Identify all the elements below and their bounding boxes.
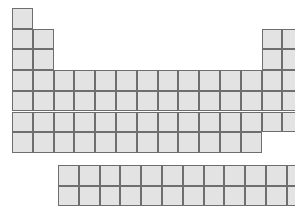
- element-cell-g1-p1[interactable]: [12, 8, 33, 29]
- element-cell-g4-p7[interactable]: [74, 132, 95, 153]
- element-cell-g13-p5[interactable]: [262, 91, 283, 112]
- element-cell-g14-p2[interactable]: [282, 29, 295, 50]
- fblock-cell-r2-c2[interactable]: [79, 186, 100, 207]
- element-cell-g12-p7[interactable]: [241, 132, 262, 153]
- element-cell-g13-p2[interactable]: [262, 29, 283, 50]
- element-cell-g6-p4[interactable]: [116, 70, 137, 91]
- element-cell-g7-p5[interactable]: [137, 91, 158, 112]
- element-cell-g1-p3[interactable]: [12, 49, 33, 70]
- element-cell-g7-p6[interactable]: [137, 112, 158, 133]
- fblock-cell-r1-c6[interactable]: [162, 165, 183, 186]
- element-cell-g12-p4[interactable]: [241, 70, 262, 91]
- element-cell-g9-p6[interactable]: [178, 112, 199, 133]
- element-cell-g14-p3[interactable]: [282, 49, 295, 70]
- fblock-cell-r1-c3[interactable]: [100, 165, 121, 186]
- element-cell-g9-p7[interactable]: [178, 132, 199, 153]
- element-cell-g1-p6[interactable]: [12, 112, 33, 133]
- element-cell-g7-p7[interactable]: [137, 132, 158, 153]
- element-cell-g2-p7[interactable]: [33, 132, 54, 153]
- element-cell-g5-p5[interactable]: [95, 91, 116, 112]
- element-cell-g3-p7[interactable]: [54, 132, 75, 153]
- element-cell-g3-p4[interactable]: [54, 70, 75, 91]
- element-cell-g9-p4[interactable]: [178, 70, 199, 91]
- element-cell-g11-p4[interactable]: [220, 70, 241, 91]
- element-cell-g4-p6[interactable]: [74, 112, 95, 133]
- fblock-cell-r1-c8[interactable]: [204, 165, 225, 186]
- fblock-cell-r2-c4[interactable]: [120, 186, 141, 207]
- element-cell-g14-p6[interactable]: [282, 112, 295, 133]
- element-cell-g7-p4[interactable]: [137, 70, 158, 91]
- element-cell-g3-p6[interactable]: [54, 112, 75, 133]
- element-cell-g4-p4[interactable]: [74, 70, 95, 91]
- element-cell-g1-p7[interactable]: [12, 132, 33, 153]
- fblock-cell-r1-c2[interactable]: [79, 165, 100, 186]
- fblock-cell-r2-c8[interactable]: [204, 186, 225, 207]
- element-cell-g13-p4[interactable]: [262, 70, 283, 91]
- element-cell-g11-p7[interactable]: [220, 132, 241, 153]
- fblock-cell-r2-c1[interactable]: [58, 186, 79, 207]
- fblock-cell-r1-c10[interactable]: [245, 165, 266, 186]
- element-cell-g8-p5[interactable]: [158, 91, 179, 112]
- fblock-cell-r2-c12[interactable]: [287, 186, 295, 207]
- element-cell-g8-p6[interactable]: [158, 112, 179, 133]
- element-cell-g1-p4[interactable]: [12, 70, 33, 91]
- element-cell-g12-p6[interactable]: [241, 112, 262, 133]
- element-cell-g11-p5[interactable]: [220, 91, 241, 112]
- element-cell-g8-p7[interactable]: [158, 132, 179, 153]
- element-cell-g13-p3[interactable]: [262, 49, 283, 70]
- element-cell-g10-p4[interactable]: [199, 70, 220, 91]
- element-cell-g10-p5[interactable]: [199, 91, 220, 112]
- element-cell-g5-p4[interactable]: [95, 70, 116, 91]
- element-cell-g6-p5[interactable]: [116, 91, 137, 112]
- fblock-cell-r1-c1[interactable]: [58, 165, 79, 186]
- element-cell-g2-p3[interactable]: [33, 49, 54, 70]
- fblock-cell-r2-c9[interactable]: [224, 186, 245, 207]
- element-cell-g2-p2[interactable]: [33, 29, 54, 50]
- element-cell-g2-p6[interactable]: [33, 112, 54, 133]
- element-cell-g3-p5[interactable]: [54, 91, 75, 112]
- element-cell-g14-p5[interactable]: [282, 91, 295, 112]
- fblock-cell-r1-c7[interactable]: [183, 165, 204, 186]
- element-cell-g4-p5[interactable]: [74, 91, 95, 112]
- fblock-cell-r2-c5[interactable]: [141, 186, 162, 207]
- fblock-cell-r1-c12[interactable]: [287, 165, 295, 186]
- element-cell-g5-p7[interactable]: [95, 132, 116, 153]
- element-cell-g12-p5[interactable]: [241, 91, 262, 112]
- fblock-cell-r1-c9[interactable]: [224, 165, 245, 186]
- element-cell-g2-p5[interactable]: [33, 91, 54, 112]
- fblock-cell-r2-c3[interactable]: [100, 186, 121, 207]
- element-cell-g10-p6[interactable]: [199, 112, 220, 133]
- element-cell-g6-p6[interactable]: [116, 112, 137, 133]
- element-cell-g14-p4[interactable]: [282, 70, 295, 91]
- fblock-cell-r1-c4[interactable]: [120, 165, 141, 186]
- element-cell-g1-p5[interactable]: [12, 91, 33, 112]
- element-cell-g9-p5[interactable]: [178, 91, 199, 112]
- fblock-cell-r1-c5[interactable]: [141, 165, 162, 186]
- fblock-cell-r2-c11[interactable]: [266, 186, 287, 207]
- fblock-cell-r1-c11[interactable]: [266, 165, 287, 186]
- element-cell-g5-p6[interactable]: [95, 112, 116, 133]
- element-cell-g11-p6[interactable]: [220, 112, 241, 133]
- element-cell-g10-p7[interactable]: [199, 132, 220, 153]
- fblock-cell-r2-c6[interactable]: [162, 186, 183, 207]
- element-cell-g2-p4[interactable]: [33, 70, 54, 91]
- periodic-table-figure: [0, 0, 295, 210]
- fblock-cell-r2-c7[interactable]: [183, 186, 204, 207]
- element-cell-g6-p7[interactable]: [116, 132, 137, 153]
- element-cell-g13-p6[interactable]: [262, 112, 283, 133]
- element-cell-g8-p4[interactable]: [158, 70, 179, 91]
- fblock-cell-r2-c10[interactable]: [245, 186, 266, 207]
- element-cell-g1-p2[interactable]: [12, 29, 33, 50]
